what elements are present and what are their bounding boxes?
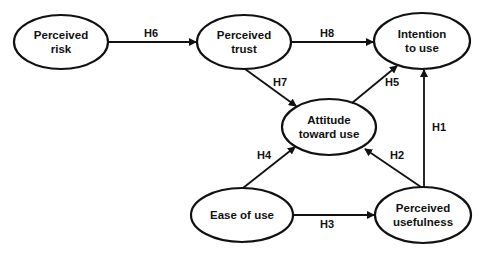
edge-label-h1: H1 xyxy=(432,121,446,133)
edge-label-h5: H5 xyxy=(385,76,399,88)
edge-label-h2: H2 xyxy=(390,149,404,161)
node-intention-to-use: Intention to use xyxy=(374,13,470,69)
edge-label-h6: H6 xyxy=(144,27,158,39)
node-attitude-toward-use: Attitude toward use xyxy=(282,99,376,155)
node-perceived-usefulness: Perceived usefulness xyxy=(375,187,471,243)
edge-label-h7: H7 xyxy=(273,76,287,88)
node-perceived-trust: Perceived trust xyxy=(197,15,291,69)
edge-label-h8: H8 xyxy=(320,27,334,39)
node-ease-of-use: Ease of use xyxy=(191,188,293,242)
node-perceived-risk: Perceived risk xyxy=(14,15,108,69)
edge-label-h3: H3 xyxy=(320,218,334,230)
edge-label-h4: H4 xyxy=(257,149,271,161)
research-model-diagram: Perceived risk Perceived trust Intention… xyxy=(0,0,486,258)
